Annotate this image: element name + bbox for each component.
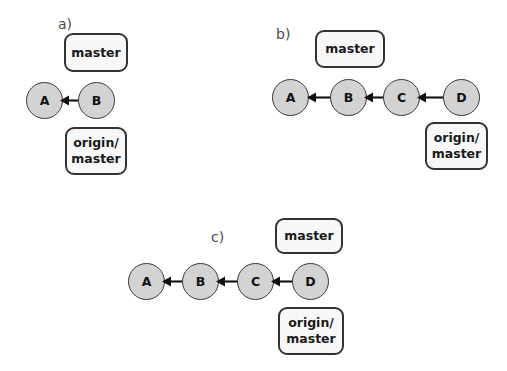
panel-c-ref-master: master [275, 218, 343, 254]
panel-b-label: b) [276, 26, 290, 42]
panel-b-arrow-d-to-c [417, 92, 445, 103]
panel-c-commit-b: B [182, 263, 219, 300]
panel-a-label: a) [58, 16, 72, 32]
panel-b-commit-d: D [443, 79, 480, 116]
panel-b-ref-origin-master: origin/ master [425, 122, 488, 170]
diagram-canvas: a) master A B origin/ master b) master A… [0, 0, 507, 371]
panel-b-commit-c: C [383, 79, 420, 116]
panel-c-ref-origin-master: origin/ master [278, 307, 344, 355]
panel-a-commit-b: B [78, 82, 115, 119]
panel-b-commit-a: A [272, 79, 309, 116]
panel-a-commit-a: A [26, 82, 63, 119]
panel-c-commit-c: C [237, 263, 274, 300]
panel-c-commit-d: D [292, 263, 329, 300]
panel-c-label: c) [211, 229, 224, 245]
panel-c-commit-a: A [128, 263, 165, 300]
panel-a-ref-master: master [64, 33, 128, 72]
panel-b-commit-b: B [330, 79, 367, 116]
panel-b-ref-master: master [315, 30, 385, 68]
panel-a-ref-origin-master: origin/ master [65, 127, 127, 175]
